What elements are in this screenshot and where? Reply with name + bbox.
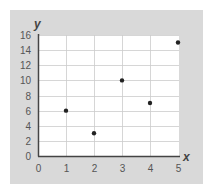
y-tick-label: 14 xyxy=(20,45,32,56)
y-tick-label: 8 xyxy=(25,91,31,102)
x-axis-label: x xyxy=(182,150,191,164)
x-tick-label: 0 xyxy=(36,163,42,174)
data-point xyxy=(148,101,152,105)
y-tick-label: 0 xyxy=(25,151,31,162)
x-tick-label: 4 xyxy=(148,163,154,174)
y-tick-label: 6 xyxy=(25,106,31,117)
y-tick-labels: 0246810121416 xyxy=(20,30,32,162)
data-point xyxy=(64,108,68,112)
y-tick-label: 12 xyxy=(20,60,32,71)
y-tick-label: 16 xyxy=(20,30,32,41)
y-tick-label: 2 xyxy=(25,136,31,147)
y-axis-label: y xyxy=(33,17,42,31)
y-tick-label: 10 xyxy=(20,75,32,86)
y-tick-label: 4 xyxy=(25,121,31,132)
x-tick-label: 2 xyxy=(92,163,98,174)
data-point xyxy=(120,78,124,82)
x-tick-label: 3 xyxy=(120,163,126,174)
x-tick-labels: 012345 xyxy=(36,163,182,174)
x-tick-label: 5 xyxy=(176,163,182,174)
data-point xyxy=(176,40,180,44)
plot-area xyxy=(38,35,179,156)
x-tick-label: 1 xyxy=(64,163,70,174)
data-point xyxy=(92,131,96,135)
scatter-chart: 0246810121416 012345 y x xyxy=(0,0,210,191)
